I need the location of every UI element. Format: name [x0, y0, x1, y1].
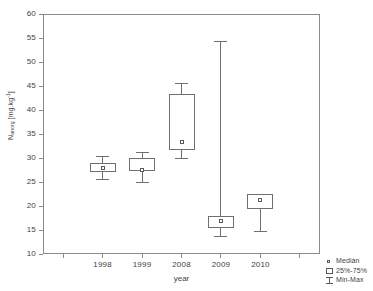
y-axis-title-main: N [7, 135, 14, 140]
legend-item-whisker-minmax: Min-Max [325, 275, 367, 285]
y-tick-mark [39, 182, 43, 183]
cap-min [136, 182, 149, 183]
y-tick-mark [39, 110, 43, 111]
whisker-upper [181, 83, 182, 95]
y-tick-label: 55 [27, 32, 36, 43]
cap-max [175, 83, 188, 84]
median-marker [140, 168, 144, 172]
y-axis-title: Nanorg [mg.kg-1] [7, 68, 14, 164]
cap-max [96, 156, 109, 157]
y-tick-label: 10 [27, 248, 36, 259]
whisker-upper [220, 41, 221, 216]
legend: Medián25%-75%Min-Max [325, 256, 367, 285]
whisker-upper [102, 156, 103, 163]
box-25-75-icon [325, 266, 333, 274]
x-tick-label: 2010 [240, 260, 280, 269]
y-tick-label: 40 [27, 104, 36, 115]
x-axis-title: year [43, 274, 320, 283]
legend-label: Medián [336, 256, 360, 266]
y-tick-mark [39, 14, 43, 15]
whisker-lower [142, 171, 143, 182]
y-tick-label: 45 [27, 80, 36, 91]
x-tick-mark [181, 254, 182, 258]
y-tick-mark [39, 38, 43, 39]
x-tick-mark [299, 254, 300, 258]
cap-min [254, 231, 267, 232]
y-tick-mark [39, 206, 43, 207]
cap-min [175, 158, 188, 159]
y-tick-label: 25 [27, 176, 36, 187]
y-axis-title-sup: -1 [5, 93, 11, 98]
whisker-lower [220, 228, 221, 236]
y-tick-label: 30 [27, 152, 36, 163]
y-tick-label: 15 [27, 224, 36, 235]
y-tick-mark [39, 86, 43, 87]
cap-max [136, 152, 149, 153]
legend-label: Min-Max [336, 275, 364, 285]
x-tick-label: 2008 [162, 260, 202, 269]
legend-item-median-marker: Medián [325, 256, 367, 266]
x-tick-mark [102, 254, 103, 258]
y-tick-label: 60 [27, 8, 36, 19]
x-tick-label: 2009 [201, 260, 241, 269]
x-tick-mark [63, 254, 64, 258]
median-marker-icon [325, 257, 333, 265]
median-marker [180, 140, 184, 144]
y-tick-label: 35 [27, 128, 36, 139]
cap-min [214, 236, 227, 237]
y-tick-label: 20 [27, 200, 36, 211]
median-marker [101, 166, 105, 170]
y-tick-label: 50 [27, 56, 36, 67]
x-tick-mark [220, 254, 221, 258]
x-tick-mark [142, 254, 143, 258]
y-axis-title-sub: anorg [9, 121, 15, 134]
whisker-minmax-icon [325, 276, 333, 284]
whisker-lower [260, 209, 261, 231]
median-marker [258, 198, 262, 202]
y-tick-mark [39, 134, 43, 135]
median-marker [219, 219, 223, 223]
boxplot-chart: 1015202530354045505560 Nanorg [mg.kg-1] … [0, 0, 373, 291]
cap-min [96, 179, 109, 180]
y-axis-title-units-open: [mg.kg [7, 98, 14, 122]
whisker-lower [181, 150, 182, 158]
x-tick-label: 1999 [122, 260, 162, 269]
legend-label: 25%-75% [336, 266, 367, 276]
y-tick-mark [39, 230, 43, 231]
y-tick-mark [39, 254, 43, 255]
y-tick-mark [39, 158, 43, 159]
legend-item-box-25-75: 25%-75% [325, 266, 367, 276]
x-tick-mark [260, 254, 261, 258]
x-tick-label: 1998 [83, 260, 123, 269]
y-tick-mark [39, 62, 43, 63]
cap-max [214, 41, 227, 42]
